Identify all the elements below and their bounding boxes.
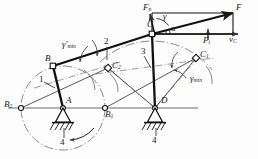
label-joint-D: D bbox=[161, 96, 168, 105]
ground-support-A bbox=[50, 108, 74, 130]
label-force-Ft: Ft bbox=[203, 36, 210, 46]
label-joint-B: B bbox=[45, 54, 51, 63]
label-gamma-min-right: γmin bbox=[190, 74, 202, 84]
ground-support-D bbox=[142, 108, 166, 130]
label-force-Fn: Fn bbox=[143, 3, 151, 13]
label-position-C1: C1 bbox=[200, 50, 209, 60]
label-position-C2: C2 bbox=[112, 61, 121, 71]
label-position-B1: B1 bbox=[105, 110, 113, 120]
label-force-F: F bbox=[236, 3, 242, 12]
label-velocity-vC: vC bbox=[229, 35, 237, 45]
mechanism-diagram: B A C D B1 B2 C1 C2 1 2 3 4 4 F Fn Ft vC… bbox=[0, 0, 258, 159]
label-joint-C: C bbox=[147, 20, 153, 29]
label-leader-lines bbox=[44, 47, 156, 138]
label-ground-left: 4 bbox=[60, 138, 65, 147]
label-angle-alpha: α bbox=[171, 24, 176, 33]
link-3-rocker bbox=[152, 34, 155, 108]
link-2-coupler bbox=[53, 34, 152, 66]
link-1-crank bbox=[53, 66, 63, 108]
rotation-direction-arrow bbox=[70, 128, 94, 140]
label-angle-gamma: γ bbox=[163, 12, 167, 21]
label-position-B2: B2 bbox=[4, 100, 12, 110]
label-ground-right: 4 bbox=[152, 136, 157, 145]
label-joint-A: A bbox=[66, 96, 72, 105]
label-link-1: 1 bbox=[39, 75, 44, 84]
label-link-2: 2 bbox=[104, 37, 109, 46]
label-gamma-min-left: γ'min bbox=[62, 40, 76, 50]
label-link-3: 3 bbox=[141, 47, 146, 56]
